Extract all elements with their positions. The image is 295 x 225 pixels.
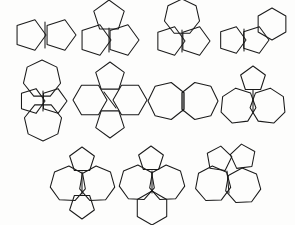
ring-pentagon [96,62,125,89]
ring-structures-diagram [0,0,295,225]
structure-two-heptagons-with-top-pentagon [221,66,285,123]
shared-edge [104,92,116,108]
ring-pentagon [70,147,95,171]
structure-bicyclic-pentagon-pentagon [17,20,76,50]
ring-pentagon [47,20,76,50]
ring-pentagon [158,27,185,56]
structure-two-heptagons-two-pentagons-angled [196,144,261,202]
ring-heptagon [196,166,231,200]
ring-pentagon [17,20,46,50]
ring-pentagon [241,66,266,90]
structure-two-pentagons-with-hexagon [221,8,286,53]
ring-pentagon [230,144,255,168]
structure-two-heptagons-pentagon-top-hexagon-bottom [119,146,184,225]
ring-heptagon [226,168,261,203]
figure-canvas [0,0,295,225]
ring-pentagon [244,27,269,54]
ring-heptagon [119,165,154,200]
ring-pentagon [70,195,95,219]
ring-pentagon [139,146,164,170]
ring-pentagon [96,111,125,138]
ring-heptagon [148,82,184,119]
ring-pentagon [21,89,45,114]
ring-pentagon [183,27,210,56]
structure-two-heptagons-two-pentagons-horizontal [50,147,114,219]
ring-heptagon [182,82,218,119]
ring-pentagon [221,27,246,54]
structure-two-fused-heptagons [148,82,218,119]
structure-heptagon-over-two-pentagons [158,0,210,55]
ring-pentagon [94,0,124,29]
structure-two-pentagons-two-hexagons-cross [73,62,147,138]
ring-hexagon [113,85,147,114]
structure-tricyclic-three-pentagons [82,0,139,55]
ring-heptagon [150,165,185,200]
ring-hexagon [137,191,166,225]
structure-two-heptagons-two-pentagons-vertical [21,60,67,141]
ring-hexagon [73,85,107,114]
ring-hexagon [258,8,286,40]
